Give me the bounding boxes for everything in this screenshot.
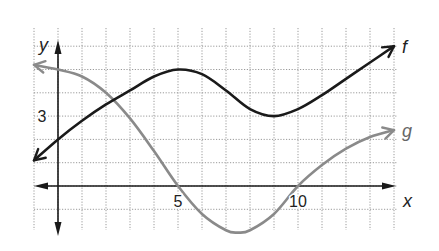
x-axis-arrow-left [34, 183, 48, 190]
y-axis-arrow-up [55, 40, 62, 54]
curve-g [34, 65, 394, 233]
labels: yx3510fg [37, 35, 413, 211]
x-tick-label: 5 [174, 193, 183, 210]
x-axis-label: x [402, 191, 413, 211]
function-graph: yx3510fg [0, 0, 439, 251]
curve-f [34, 46, 394, 160]
legend-label-g: g [402, 121, 412, 141]
y-axis-arrow-down [55, 222, 62, 236]
x-tick-label: 10 [289, 193, 307, 210]
y-axis-label: y [37, 35, 49, 55]
series-g [34, 61, 394, 232]
legend-label-f: f [402, 37, 409, 57]
y-tick-label: 3 [38, 108, 47, 125]
series-f [34, 46, 394, 160]
grid [34, 28, 398, 230]
